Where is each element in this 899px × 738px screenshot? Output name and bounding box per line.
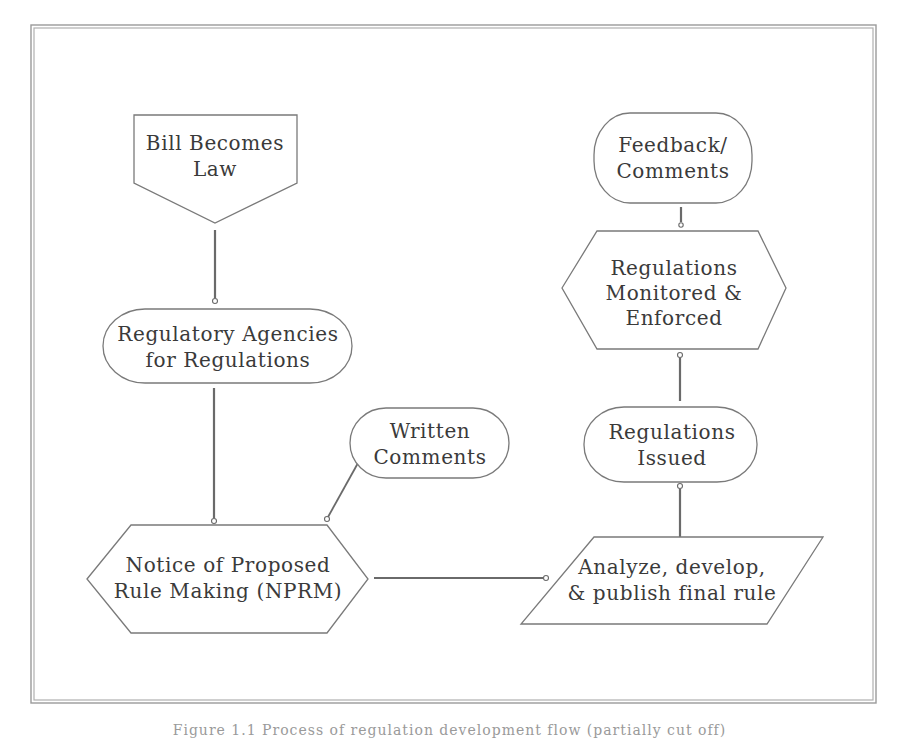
node-analyze-publish: Analyze, develop, & publish final rule bbox=[521, 537, 823, 624]
node-label: Feedback/ bbox=[618, 133, 727, 157]
node-monitored-enforced: Regulations Monitored & Enforced bbox=[562, 231, 786, 349]
arrowhead-icon bbox=[678, 353, 683, 358]
node-label: Monitored & bbox=[606, 281, 743, 305]
edge-comments-to-nprm bbox=[325, 463, 359, 522]
arrowhead-icon bbox=[544, 576, 549, 581]
edge-issued-to-monitored bbox=[678, 353, 683, 402]
node-nprm: Notice of Proposed Rule Making (NPRM) bbox=[87, 525, 368, 633]
edge-agencies-to-nprm bbox=[212, 388, 217, 524]
figure-caption: Figure 1.1 Process of regulation develop… bbox=[0, 722, 899, 738]
node-label: Enforced bbox=[625, 306, 722, 330]
edge-monitored-to-feedback bbox=[679, 207, 683, 227]
arrowhead-icon bbox=[325, 517, 330, 522]
arrowhead-icon bbox=[212, 519, 217, 524]
node-label: Written bbox=[390, 419, 471, 443]
node-label: Comments bbox=[616, 159, 729, 183]
arrowhead-icon bbox=[678, 484, 683, 489]
arrowhead-icon bbox=[679, 223, 683, 227]
node-bill-becomes-law: Bill Becomes Law bbox=[134, 115, 297, 223]
node-label: Regulatory Agencies bbox=[117, 322, 338, 346]
node-label: Comments bbox=[373, 445, 486, 469]
node-label: Notice of Proposed bbox=[126, 553, 331, 577]
node-label: Issued bbox=[637, 446, 707, 470]
node-label: Regulations bbox=[608, 420, 735, 444]
edge-bill-to-agencies bbox=[213, 230, 218, 304]
node-label: Regulations bbox=[610, 256, 737, 280]
node-label: Bill Becomes bbox=[146, 131, 284, 155]
node-label: for Regulations bbox=[146, 348, 311, 372]
node-written-comments: Written Comments bbox=[350, 408, 509, 478]
node-label: Rule Making (NPRM) bbox=[114, 579, 342, 603]
node-regulatory-agencies: Regulatory Agencies for Regulations bbox=[103, 309, 352, 383]
node-label: Law bbox=[193, 157, 237, 181]
node-label: & publish final rule bbox=[568, 581, 777, 605]
node-regulations-issued: Regulations Issued bbox=[584, 407, 757, 482]
edge-analyze-to-issued bbox=[678, 484, 683, 538]
arrowhead-icon bbox=[213, 299, 218, 304]
node-feedback-comments: Feedback/ Comments bbox=[594, 113, 752, 203]
node-label: Analyze, develop, bbox=[577, 555, 766, 579]
edge-nprm-to-analyze bbox=[374, 576, 549, 581]
